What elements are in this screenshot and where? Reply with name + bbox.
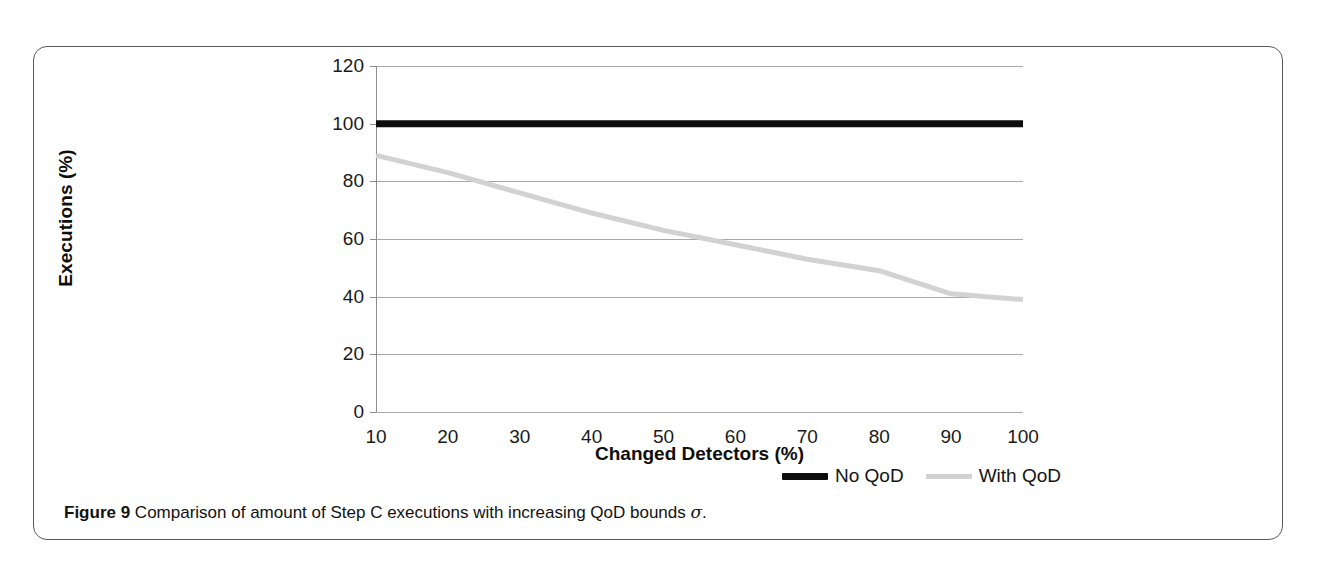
y-tick-label: 40 bbox=[343, 286, 364, 308]
y-tick-label: 80 bbox=[343, 170, 364, 192]
figure-frame: Executions (%) 020406080100120 102030405… bbox=[33, 46, 1283, 540]
figure-caption-period: . bbox=[702, 503, 707, 522]
y-tick-label: 0 bbox=[353, 401, 364, 423]
chart-legend: No QoDWith QoD bbox=[782, 465, 1061, 487]
figure-caption-text: Comparison of amount of Step C execution… bbox=[135, 503, 686, 522]
y-axis-title: Executions (%) bbox=[55, 88, 77, 348]
y-tick-label: 20 bbox=[343, 343, 364, 365]
y-tick-label: 120 bbox=[332, 55, 364, 77]
figure-caption: Figure 9 Comparison of amount of Step C … bbox=[64, 502, 707, 523]
legend-label: With QoD bbox=[979, 465, 1061, 487]
figure-caption-label: Figure 9 bbox=[64, 503, 130, 522]
legend-swatch-icon bbox=[782, 473, 828, 480]
series-lines bbox=[376, 66, 1023, 412]
legend-entry-with-qod: With QoD bbox=[926, 465, 1061, 487]
sigma-symbol: σ bbox=[691, 502, 703, 522]
chart-container: Executions (%) 020406080100120 102030405… bbox=[34, 47, 1284, 467]
plot-area: 020406080100120 102030405060708090100 bbox=[376, 66, 1023, 412]
x-axis-title: Changed Detectors (%) bbox=[376, 443, 1023, 465]
series-line-with-qod bbox=[376, 155, 1023, 299]
y-tick-label: 100 bbox=[332, 113, 364, 135]
legend-entry-no-qod: No QoD bbox=[782, 465, 904, 487]
y-tick-mark bbox=[370, 412, 376, 413]
legend-swatch-icon bbox=[926, 474, 972, 479]
gridline bbox=[376, 412, 1023, 413]
y-tick-label: 60 bbox=[343, 228, 364, 250]
legend-label: No QoD bbox=[835, 465, 904, 487]
